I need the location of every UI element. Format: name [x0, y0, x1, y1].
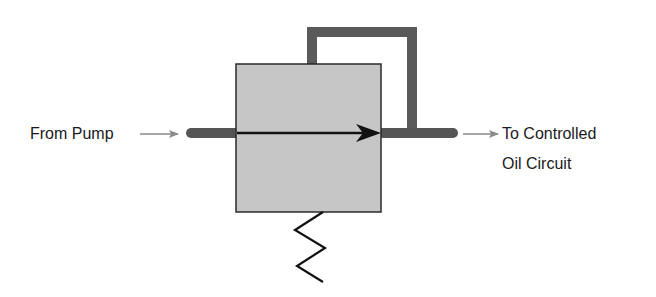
inlet-pipe [186, 128, 240, 138]
outlet-label-line1: To Controlled [502, 125, 596, 142]
valve-diagram: From Pump To Controlled Oil Circuit [0, 0, 656, 297]
control-spring [295, 212, 325, 282]
outlet-pipe [378, 128, 458, 138]
outlet-label-line2: Oil Circuit [502, 155, 572, 172]
inlet-label: From Pump [30, 125, 114, 142]
